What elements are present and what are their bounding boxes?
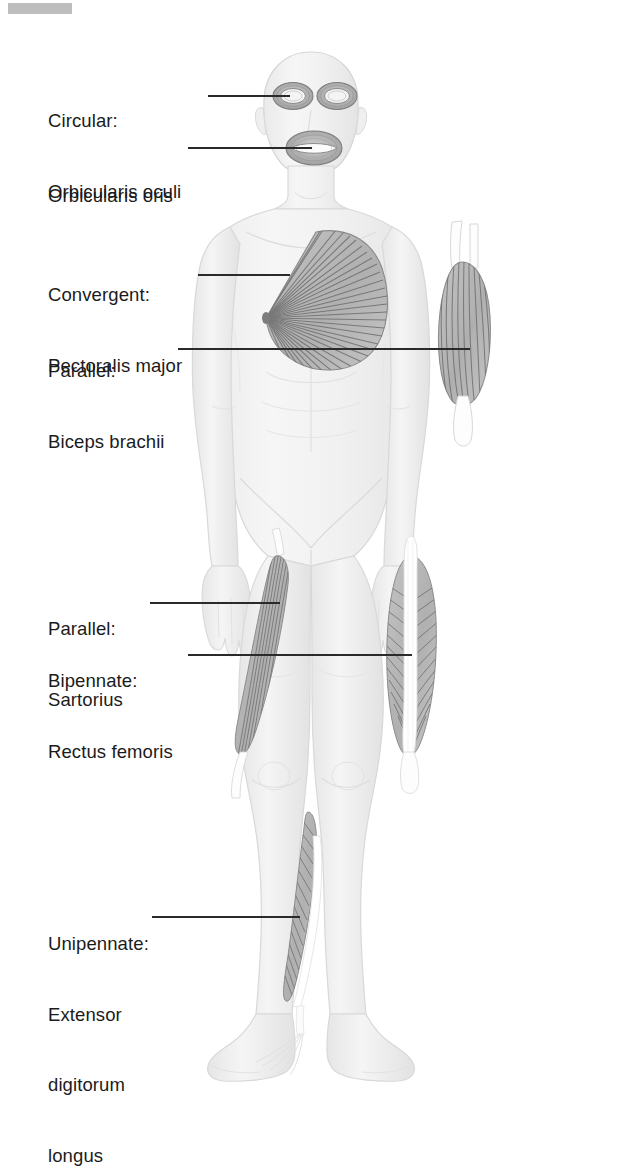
label-biceps-brachii: Parallel: Biceps brachii: [48, 312, 165, 477]
label-name-digitorum: digitorum: [48, 1073, 149, 1097]
label-name-extensor: Extensor: [48, 1003, 149, 1027]
label-name-longus: longus: [48, 1144, 149, 1168]
neck: [274, 166, 348, 209]
label-extensor-digitorum-longus: Unipennate: Extensor digitorum longus: [48, 885, 149, 1170]
leg-right: [311, 556, 383, 1014]
muscle-biceps-brachii: [438, 221, 490, 446]
label-rectus-femoris: Bipennate: Rectus femoris: [48, 622, 173, 787]
label-type-convergent: Convergent:: [48, 283, 182, 307]
label-type-circular: Circular:: [48, 109, 181, 133]
foot-right: [327, 1014, 414, 1081]
label-name-rectus-femoris: Rectus femoris: [48, 740, 173, 764]
label-type-bipennate: Bipennate:: [48, 669, 173, 693]
label-orbicularis-oris: Orbicularis oris: [48, 137, 173, 231]
label-type-unipennate: Unipennate:: [48, 932, 149, 956]
label-type-parallel-biceps: Parallel:: [48, 359, 165, 383]
label-name-orbicularis-oris: Orbicularis oris: [48, 184, 173, 208]
label-name-biceps-brachii: Biceps brachii: [48, 430, 165, 454]
